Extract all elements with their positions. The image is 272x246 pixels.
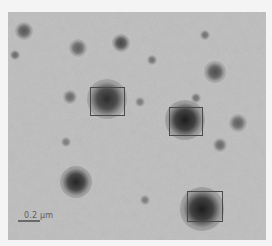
- particle: [204, 61, 226, 83]
- box-particle-3: [187, 191, 223, 222]
- scale-bar-line: [18, 220, 40, 222]
- particle: [229, 114, 247, 132]
- scale-bar-label: 0.2 μm: [24, 211, 53, 220]
- background-texture: [8, 12, 266, 240]
- particle: [112, 34, 130, 52]
- box-particle-2: [169, 107, 203, 136]
- particle: [15, 22, 33, 40]
- box-particle-1: [90, 87, 125, 116]
- micrograph-image: 0.2 μm: [8, 12, 266, 240]
- particle: [69, 39, 87, 57]
